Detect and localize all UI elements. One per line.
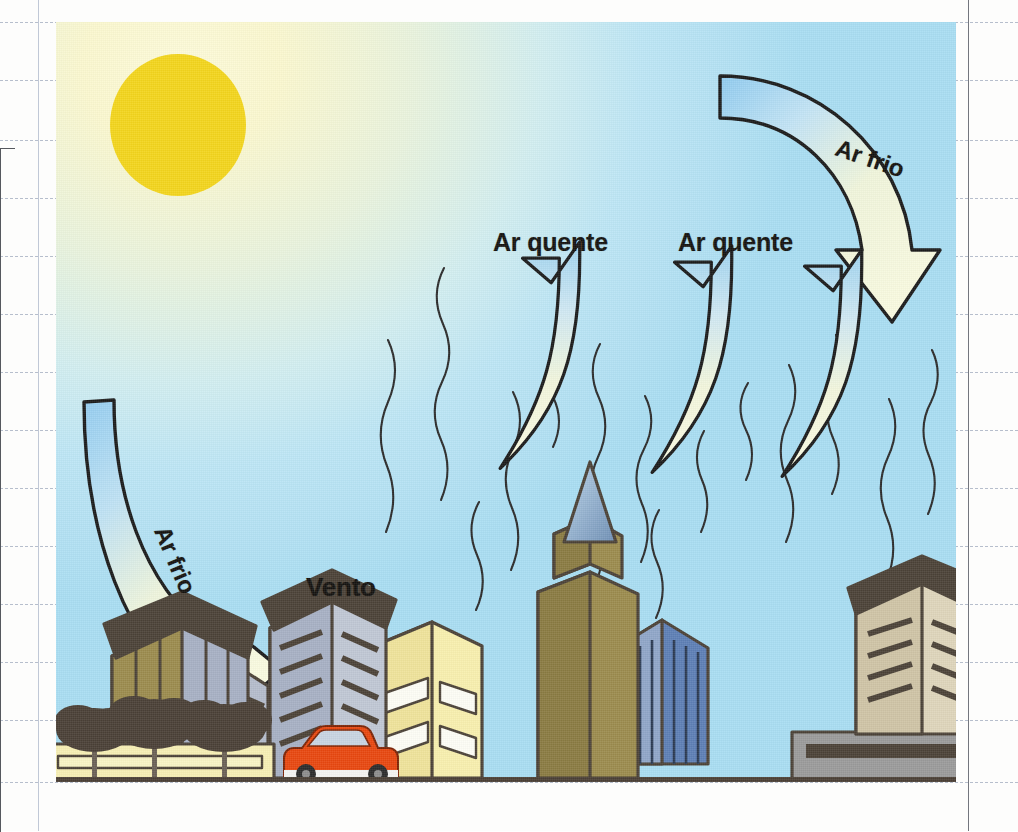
building-spire-tower bbox=[538, 462, 638, 778]
sun-icon bbox=[110, 54, 246, 196]
hot-air-arrow-3 bbox=[782, 250, 862, 476]
hot-air-arrow-2 bbox=[652, 246, 732, 472]
urban-heat-island-illustration: Ar quente Ar quente Vento Ar frio Ar fri… bbox=[56, 22, 956, 782]
ground-line bbox=[56, 777, 956, 782]
page-margin-line bbox=[968, 0, 969, 831]
building-beige-right bbox=[848, 556, 956, 734]
page-rule-line bbox=[0, 782, 1018, 783]
label-hot-air-1: Ar quente bbox=[493, 228, 608, 257]
page-corner-rule bbox=[0, 148, 15, 832]
label-hot-air-2: Ar quente bbox=[678, 228, 793, 257]
hot-air-arrow-1 bbox=[500, 242, 580, 468]
building-gray-podium-right bbox=[792, 732, 956, 782]
page-margin-line bbox=[38, 0, 39, 831]
label-wind: Vento bbox=[306, 572, 376, 603]
